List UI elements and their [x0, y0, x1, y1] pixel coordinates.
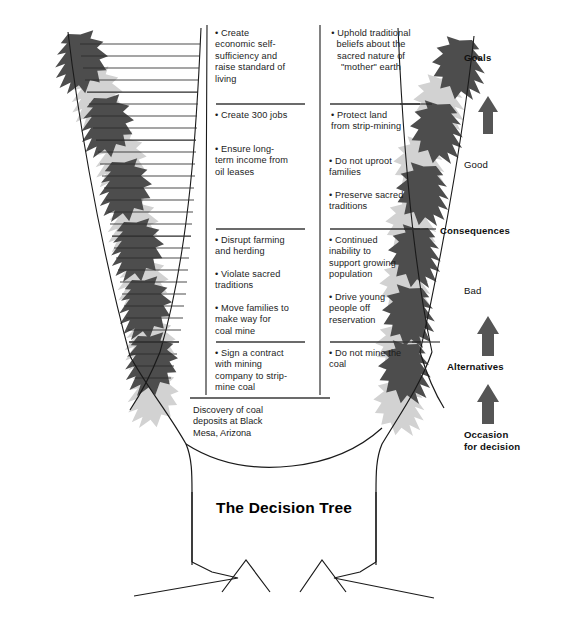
legend-label-alternatives: Alternatives [447, 361, 504, 373]
legend-label-occasion: Occasion for decision [464, 429, 520, 452]
right-item-goal-4: • Preserve sacred traditions [329, 190, 405, 213]
left-item-consequence-2: • Violate sacred traditions [215, 269, 289, 292]
right-item-goal-2: • Protect land from strip-mining [331, 110, 407, 133]
right-item-consequence-1: • Continued inability to support growing… [329, 235, 405, 281]
occasion-for-decision-text: Discovery of coal deposits at Black Mesa… [193, 405, 287, 439]
arrow-up-alternatives [477, 316, 499, 356]
left-item-alternative-1: • Sign a contract with mining company to… [215, 348, 289, 394]
leaf-group-left [47, 27, 184, 401]
legend-label-consequences: Consequences [440, 225, 510, 237]
arrow-up-goals [478, 96, 498, 134]
right-item-consequence-2: • Drive young people off reservation [329, 292, 405, 326]
decision-tree-diagram: • Create economic self-sufficiency and r… [0, 0, 569, 629]
left-item-goal-3: • Ensure long-term income from oil lease… [215, 144, 289, 178]
left-item-consequence-3: • Move families to make way for coal min… [215, 303, 289, 337]
right-item-goal-1: • Uphold traditional beliefs about the s… [328, 28, 414, 74]
legend-label-bad: Bad [464, 285, 482, 297]
right-item-alternative-1: • Do not mine the coal [329, 348, 405, 371]
legend-label-goals: Goals [464, 52, 491, 64]
page-title: The Decision Tree [204, 498, 364, 517]
legend-arrows [477, 96, 499, 424]
legend-label-good: Good [464, 159, 488, 171]
left-item-consequence-1: • Disrupt farming and herding [215, 235, 289, 258]
right-item-goal-3: • Do not uproot families [329, 156, 405, 179]
left-item-goal-2: • Create 300 jobs [215, 110, 289, 121]
arrow-up-occasion [477, 384, 499, 424]
left-item-goal-1: • Create economic self-sufficiency and r… [215, 28, 289, 85]
